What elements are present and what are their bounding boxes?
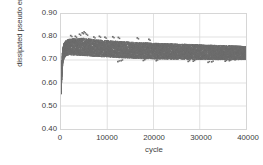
x-tick-label: 20000	[134, 134, 174, 142]
x-axis-title: cycle	[60, 145, 248, 154]
plot-area	[60, 13, 247, 130]
gridlines	[61, 14, 246, 129]
x-tick-label: 40000	[228, 134, 263, 142]
scatter-plot-svg	[61, 14, 246, 129]
x-tick-label: 10000	[87, 134, 127, 142]
dissipated-pseudo-energy-chart: dissipated pseudo energy, MPa-1 0.90 0.8…	[0, 0, 263, 165]
x-tick-label: 30000	[181, 134, 221, 142]
x-tick-label: 0	[40, 134, 80, 142]
